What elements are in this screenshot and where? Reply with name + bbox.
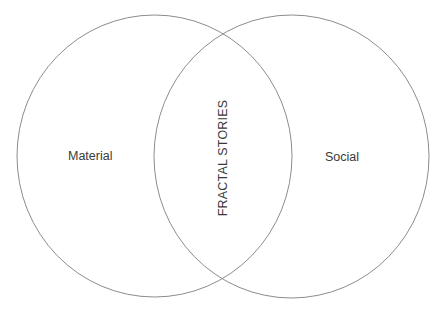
material-label: Material <box>68 150 112 163</box>
social-label: Social <box>325 151 359 164</box>
intersection-label: FRACTAL STORIES <box>217 100 230 217</box>
venn-diagram: Material Social FRACTAL STORIES <box>0 0 443 311</box>
